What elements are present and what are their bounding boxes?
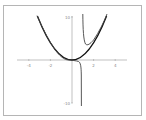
x-tick-label: -2 <box>48 63 52 68</box>
plot-area: -4 -2 2 4 10 -10 <box>0 0 146 120</box>
y-tick-label: -10 <box>63 101 70 106</box>
x-tick-label: 2 <box>92 63 95 68</box>
y-tick-label: 10 <box>65 15 71 20</box>
rational-curve-left-branch <box>37 16 81 106</box>
x-tick-label: 4 <box>114 63 117 68</box>
x-tick-label: -4 <box>27 63 31 68</box>
